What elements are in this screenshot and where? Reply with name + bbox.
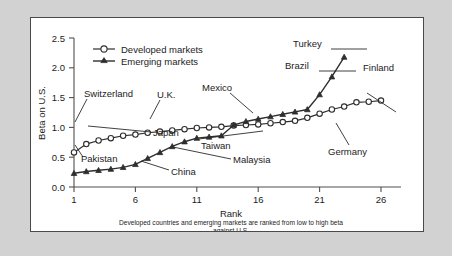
x-tick-label: 11 xyxy=(192,194,202,205)
y-axis-tick-labels: 2.5 2.0 1.5 1.0 0.5 0.0 xyxy=(52,33,65,193)
y-axis-title: Beta on U.S. xyxy=(36,86,47,140)
y-tick-label: 0.5 xyxy=(52,152,65,163)
caption-line-2: against U.S. xyxy=(213,227,249,231)
data-point-open-circle xyxy=(133,132,138,137)
legend-label-emerging: Emerging markets xyxy=(121,56,198,67)
legend-label-developed: Developed markets xyxy=(121,44,203,55)
x-tick-label: 26 xyxy=(376,194,387,205)
data-point-open-circle xyxy=(71,150,76,155)
data-point-open-circle xyxy=(84,141,89,146)
y-axis-ticks xyxy=(69,38,74,187)
annotation-brazil: Brazil xyxy=(285,60,309,71)
y-tick-label: 2.0 xyxy=(52,62,65,73)
annotation-china: China xyxy=(171,166,197,177)
data-point-open-circle xyxy=(96,138,101,143)
beta-rank-line-chart: 2.5 2.0 1.5 1.0 0.5 0.0 1 6 11 16 21 26 … xyxy=(31,18,423,231)
data-point-open-circle xyxy=(317,111,322,116)
y-tick-label: 0.0 xyxy=(52,182,65,193)
x-tick-label: 6 xyxy=(133,194,138,205)
data-point-open-circle xyxy=(354,100,359,105)
data-point-open-circle xyxy=(145,130,150,135)
data-point-open-circle xyxy=(292,118,297,123)
y-tick-label: 1.5 xyxy=(52,92,65,103)
x-tick-label: 1 xyxy=(71,194,76,205)
chart-legend: Developed markets Emerging markets xyxy=(93,44,203,67)
x-axis-tick-labels: 1 6 11 16 21 26 xyxy=(71,194,386,205)
x-axis-title: Rank xyxy=(220,208,242,219)
y-tick-label: 2.5 xyxy=(52,33,65,44)
data-point-open-circle xyxy=(280,119,285,124)
data-point-open-circle xyxy=(194,125,199,130)
caption-line-1: Developed countries and emerging markets… xyxy=(119,219,343,227)
legend-marker-filled-triangle xyxy=(101,58,107,63)
annotation-taiwan: Taiwan xyxy=(201,140,231,151)
data-point-open-circle xyxy=(256,122,261,127)
data-point-filled-triangle xyxy=(341,54,347,59)
annotation-japan: Japan xyxy=(153,127,179,138)
x-tick-label: 16 xyxy=(253,194,264,205)
data-point-open-circle xyxy=(329,107,334,112)
data-point-open-circle xyxy=(341,104,346,109)
data-point-open-circle xyxy=(305,115,310,120)
annotation-germany: Germany xyxy=(328,146,367,157)
data-point-open-circle xyxy=(268,121,273,126)
annotation-mexico: Mexico xyxy=(202,82,232,93)
data-point-open-circle xyxy=(108,135,113,140)
data-point-open-circle xyxy=(182,126,187,131)
x-tick-label: 21 xyxy=(314,194,325,205)
annotation-uk: U.K. xyxy=(157,89,175,100)
data-point-open-circle xyxy=(206,125,211,130)
annotation-malaysia: Malaysia xyxy=(233,154,271,165)
x-axis-ticks xyxy=(74,187,381,192)
annotation-turkey: Turkey xyxy=(293,38,322,49)
data-point-open-circle xyxy=(366,99,371,104)
annotation-switzerland: Switzerland xyxy=(84,88,133,99)
data-point-open-circle xyxy=(219,124,224,129)
data-point-open-circle xyxy=(120,133,125,138)
chart-panel: 2.5 2.0 1.5 1.0 0.5 0.0 1 6 11 16 21 26 … xyxy=(30,17,424,232)
legend-marker-open-circle xyxy=(101,46,107,52)
annotation-pakistan: Pakistan xyxy=(81,153,117,164)
annotation-finland: Finland xyxy=(363,62,394,73)
y-tick-label: 1.0 xyxy=(52,122,65,133)
data-series-layer xyxy=(71,54,384,175)
